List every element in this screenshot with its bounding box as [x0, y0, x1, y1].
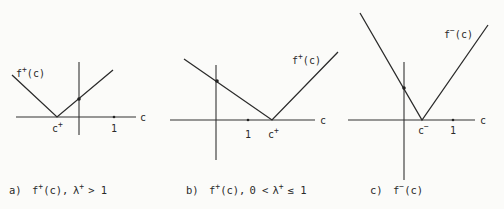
panel-c: f−(c) c− 1 c c)f−(c)	[348, 13, 488, 196]
panel-a-unit-tick	[113, 116, 116, 119]
panel-c-x-label: c	[480, 115, 486, 126]
panel-a-x-label: c	[140, 112, 146, 123]
panel-b: f+(c) 1 c+ c b)f+(c),0 <λ+≤ 1	[170, 52, 338, 196]
panel-c-unit-label: 1	[450, 125, 456, 136]
figure-canvas: f+(c) c+ 1 c a)f+(c),λ+> 1 f+(c) 1 c+ c …	[0, 0, 504, 209]
panel-c-caption: c)f−(c)	[370, 182, 423, 196]
panel-a-vertex-label: c+	[52, 120, 63, 134]
panel-c-curve-label: f−(c)	[444, 26, 473, 40]
panel-a-curve-label: f+(c)	[16, 65, 45, 79]
panel-b-unit-tick	[247, 119, 250, 122]
panel-a-unit-label: 1	[111, 123, 117, 134]
panel-b-x-label: c	[320, 115, 326, 126]
panel-b-curve-label: f+(c)	[292, 52, 321, 66]
panel-a-caption: a)f+(c),λ+> 1	[9, 182, 107, 196]
panel-b-vertex-label: c+	[268, 126, 279, 140]
panel-c-y-intercept-marker	[402, 86, 406, 90]
panel-c-vertex-label: c−	[418, 122, 429, 136]
panel-b-caption: b)f+(c),0 <λ+≤ 1	[186, 182, 307, 196]
panel-a-y-intercept-marker	[77, 97, 81, 101]
panel-a: f+(c) c+ 1 c a)f+(c),λ+> 1	[9, 62, 146, 196]
panel-b-y-intercept-marker	[215, 79, 219, 83]
panel-c-unit-tick	[452, 119, 455, 122]
panel-b-unit-label: 1	[245, 129, 251, 140]
